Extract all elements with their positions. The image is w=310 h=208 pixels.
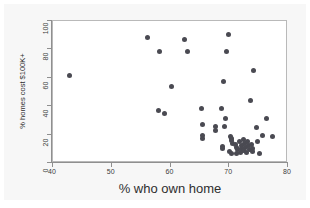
x-axis-tick [111,163,112,167]
data-point [199,106,204,111]
x-axis-tick-label: 70 [218,168,238,175]
data-point [220,146,225,151]
x-axis-tick-label: 40 [42,168,62,175]
data-point [264,116,269,121]
data-point [157,49,162,54]
data-point [223,116,228,121]
data-point [224,49,229,54]
data-point [222,124,227,129]
data-point [255,139,260,144]
y-axis-tick-label: 100 [42,19,49,39]
y-axis-tick-label: 40 [42,104,49,124]
data-point [250,149,255,154]
data-point [219,106,224,111]
plot-area [52,20,287,162]
data-point [162,111,167,116]
data-point [251,68,256,73]
x-axis-tick [228,163,229,167]
data-point [244,150,249,155]
data-point [260,133,265,138]
data-points-layer [53,21,286,161]
data-point [200,136,205,141]
x-axis-tick [52,163,53,167]
data-point [213,128,218,133]
x-axis-tick [287,163,288,167]
data-point [257,151,262,156]
y-axis-title: % homes cost $100K+ [18,53,27,128]
data-point [182,37,187,42]
y-axis-tick-label: 60 [42,75,49,95]
data-point [185,49,190,54]
x-axis-tick-label: 60 [160,168,180,175]
data-point [145,35,150,40]
x-axis-title: % who own home [119,181,222,196]
scatter-plot-figure: 020406080100 4050607080 % homes cost $10… [0,0,310,208]
data-point [229,151,234,156]
x-axis-tick-label: 50 [101,168,121,175]
data-point [226,32,231,37]
y-axis-tick-label: 80 [42,47,49,67]
data-point [221,79,226,84]
data-point [270,134,275,139]
data-point [248,98,253,103]
data-point [200,122,205,127]
y-axis-tick-label: 20 [42,132,49,152]
x-axis-tick-label: 80 [277,168,297,175]
x-axis-tick [170,163,171,167]
data-point [169,84,174,89]
data-point [156,108,161,113]
data-point [67,73,72,78]
data-point [254,125,259,130]
